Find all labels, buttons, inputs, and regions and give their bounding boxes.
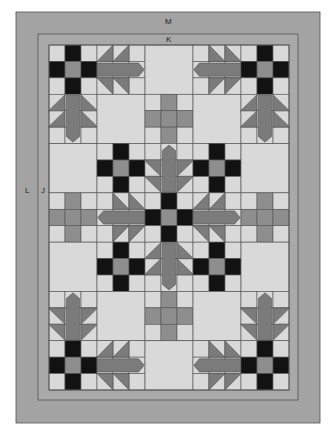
block-leaf-down-r1c4 (240, 94, 289, 143)
block-plain-r2c0 (49, 144, 97, 193)
block-plain-r0c2 (145, 45, 193, 94)
block-leaf-up-r5c4 (240, 291, 289, 340)
label-outer-border-side: L (25, 187, 29, 195)
block-cross-r3c4 (241, 193, 289, 242)
label-inner-border-side: J (41, 187, 45, 195)
block-leaf-up-r2c2 (144, 144, 193, 193)
block-plain-r1c3 (193, 94, 241, 143)
block-leaf-down-r1c0 (48, 94, 97, 143)
block-ninepatch-r6c0 (49, 341, 97, 390)
block-plain-r5c3 (193, 291, 241, 340)
block-leaf-right-r3c3 (193, 193, 241, 242)
block-leaf-down-r4c2 (144, 242, 193, 291)
block-plain-r6c2 (145, 341, 193, 390)
block-plain-r2c4 (241, 144, 289, 193)
block-cross-r3c0 (49, 193, 97, 242)
block-plain-r1c1 (97, 94, 145, 143)
block-cross-r5c2 (145, 291, 193, 340)
block-leaf-right-r6c1 (97, 341, 145, 390)
block-cross-r1c2 (145, 94, 193, 143)
block-plain-r5c1 (97, 291, 145, 340)
block-leaf-up-r5c0 (48, 291, 97, 340)
block-leaf-right-r0c1 (97, 45, 145, 94)
block-ninepatch-r2c1 (97, 144, 145, 193)
block-plain-r4c0 (49, 242, 97, 291)
block-ninepatch-r4c3 (193, 242, 241, 291)
block-leaf-left-r6c3 (193, 341, 241, 390)
label-inner-border-top: K (166, 36, 171, 44)
block-leaf-left-r0c3 (193, 45, 241, 94)
block-ninepatch-r6c4 (241, 341, 289, 390)
block-ninepatch-r4c1 (97, 242, 145, 291)
block-plain-r4c4 (241, 242, 289, 291)
block-ninepatch-r2c3 (193, 144, 241, 193)
quilt-diagram (0, 0, 332, 431)
label-outer-border-top: M (165, 18, 172, 26)
block-ninepatch-r3c2 (145, 193, 193, 242)
block-ninepatch-r0c0 (49, 45, 97, 94)
block-ninepatch-r0c4 (241, 45, 289, 94)
block-leaf-left-r3c1 (97, 193, 145, 242)
